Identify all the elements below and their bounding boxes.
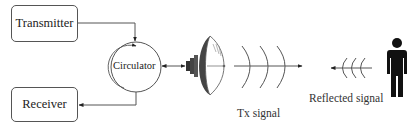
tx-signal-label: Tx signal [237, 107, 280, 119]
transmitter-label: Transmitter [16, 16, 74, 31]
reflected-signal-label: Reflected signal [309, 92, 383, 104]
person-silhouette-icon [387, 38, 407, 97]
circulator-to-rx-connector [79, 92, 136, 105]
incoming-wavefronts-icon [331, 58, 372, 78]
receiver-block: Receiver [11, 87, 78, 122]
outgoing-wavefronts-icon [234, 46, 302, 88]
tx-to-circulator-connector [77, 23, 135, 41]
parabolic-dish-antenna-icon [186, 36, 225, 95]
transmitter-block: Transmitter [11, 5, 78, 42]
circulator-label: Circulator [113, 60, 156, 71]
receiver-label: Receiver [22, 97, 66, 112]
